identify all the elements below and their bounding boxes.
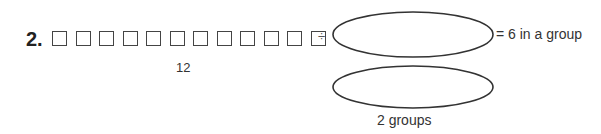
group-ellipse-2 bbox=[333, 66, 493, 108]
group-ellipses bbox=[0, 0, 601, 134]
group-ellipse-1 bbox=[333, 12, 493, 57]
result-text: = 6 in a group bbox=[496, 26, 582, 42]
groups-label: 2 groups bbox=[377, 112, 431, 128]
